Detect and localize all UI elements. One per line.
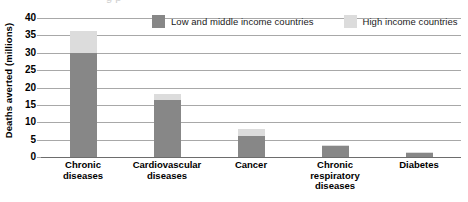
x-axis-label-line: Cancer: [209, 160, 293, 171]
bar-segment-high-income: [322, 145, 349, 146]
bar-segment-high-income: [70, 31, 97, 53]
x-axis-label-chronic-diseases: Chronicdiseases: [41, 160, 125, 181]
bar-segment-low-middle-income: [154, 100, 181, 157]
x-axis-label-line: diseases: [125, 171, 209, 182]
x-axis-label-chronic-respiratory-diseases: Chronicrespiratorydiseases: [293, 160, 377, 192]
bar-segment-low-middle-income: [322, 146, 349, 157]
x-axis-label-line: Chronic: [41, 160, 125, 171]
bar-segment-high-income: [238, 129, 265, 136]
bar-segment-high-income: [154, 94, 181, 100]
legend-item-low-and-middle-income-countries: Low and middle income countries: [152, 15, 314, 28]
legend-swatch-high-income: [344, 15, 357, 28]
x-axis-label-cancer: Cancer: [209, 160, 293, 171]
bar-chart: g p Low and middle income countries High…: [0, 0, 468, 202]
y-tick-label-5: 5: [30, 135, 36, 145]
y-tick-label-15: 15: [25, 100, 36, 110]
bar-chronic-diseases: [70, 31, 97, 157]
legend-label-high-income: High income countries: [363, 16, 458, 27]
x-axis-category-labels: ChronicdiseasesCardiovasculardiseasesCan…: [41, 160, 461, 202]
legend-swatch-low-middle-income: [152, 15, 165, 28]
y-tick-label-0: 0: [30, 152, 36, 162]
bar-segment-high-income: [406, 152, 433, 153]
bar-cardiovascular-diseases: [154, 94, 181, 157]
bar-cancer: [238, 129, 265, 157]
bar-chronic-respiratory-diseases: [322, 145, 349, 158]
x-axis-label-line: Diabetes: [377, 160, 461, 171]
y-tick-label-10: 10: [25, 117, 36, 127]
bar-diabetes: [406, 152, 433, 157]
x-axis-label-diabetes: Diabetes: [377, 160, 461, 171]
bar-segment-low-middle-income: [238, 136, 265, 157]
y-tick-label-25: 25: [25, 65, 36, 75]
y-tick-mark-0: [37, 157, 41, 158]
x-axis-label-line: diseases: [41, 171, 125, 182]
x-axis-label-cardiovascular-diseases: Cardiovasculardiseases: [125, 160, 209, 181]
gridline-0: [41, 157, 461, 158]
clipped-title-fragment: g p: [0, 0, 468, 6]
x-axis-label-line: diseases: [293, 181, 377, 192]
y-axis-title-text: Deaths averted (millions): [4, 22, 15, 137]
y-axis-title: Deaths averted (millions): [0, 0, 18, 160]
chart-legend: Low and middle income countries High inc…: [152, 13, 460, 29]
y-tick-label-30: 30: [25, 48, 36, 58]
bar-segment-low-middle-income: [406, 153, 433, 157]
y-tick-label-40: 40: [25, 13, 36, 23]
y-tick-label-20: 20: [25, 83, 36, 93]
y-tick-label-35: 35: [25, 30, 36, 40]
x-axis-label-line: Cardiovascular: [125, 160, 209, 171]
legend-label-low-middle-income: Low and middle income countries: [171, 16, 314, 27]
clipped-title-text: g p: [106, 0, 121, 3]
x-axis-label-line: Chronic: [293, 160, 377, 171]
plot-area: 0510152025303540: [41, 18, 461, 157]
legend-item-high-income-countries: High income countries: [344, 15, 458, 28]
bar-segment-low-middle-income: [70, 53, 97, 157]
bar-series-container: [41, 18, 461, 157]
